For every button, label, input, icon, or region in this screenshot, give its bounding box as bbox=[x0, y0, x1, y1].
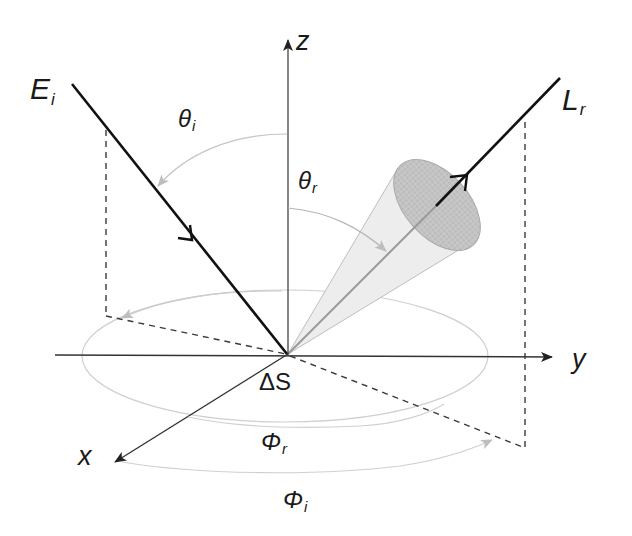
y-axis bbox=[55, 355, 552, 357]
label-incident: Ei bbox=[30, 72, 56, 109]
theta-i-arc bbox=[158, 134, 287, 186]
label-z-axis: z bbox=[295, 26, 310, 56]
label-theta-r: θr bbox=[298, 167, 318, 196]
label-theta-i: θi bbox=[178, 105, 196, 134]
label-reflected: Lr bbox=[562, 83, 587, 119]
reflected-ray bbox=[436, 78, 560, 206]
label-y-axis: y bbox=[570, 344, 587, 374]
brdf-geometry-diagram: Ei Lr z y x θi θr Φr Φi ΔS bbox=[0, 0, 632, 536]
phi-i-arc bbox=[122, 440, 492, 473]
label-phi-i: Φi bbox=[283, 486, 308, 515]
label-surface-element: ΔS bbox=[259, 368, 291, 395]
label-x-axis: x bbox=[76, 441, 93, 471]
label-phi-r: Φr bbox=[261, 428, 288, 457]
phi-r-arc bbox=[188, 404, 444, 427]
